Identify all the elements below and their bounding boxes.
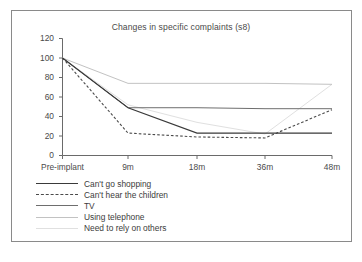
series-line-0 <box>63 58 333 133</box>
y-tick-label: 40 <box>28 111 54 121</box>
y-tick-label: 20 <box>28 131 54 141</box>
legend-item-label: TV <box>84 201 95 211</box>
x-tick-label: 18m <box>165 162 229 172</box>
legend-item-label: Can't go shopping <box>84 179 151 189</box>
y-tick-label: 120 <box>28 33 54 43</box>
legend-item: TV <box>36 200 266 211</box>
x-tick-label: 36m <box>233 162 297 172</box>
x-tick-label: Pre-implant <box>31 162 95 172</box>
legend-line-swatch <box>36 189 78 200</box>
y-tick-label: 100 <box>28 53 54 63</box>
y-tick-label: 80 <box>28 72 54 82</box>
series-line-3 <box>63 58 333 84</box>
legend-line-swatch <box>36 223 78 234</box>
legend-item: Using telephone <box>36 212 266 223</box>
x-tick-label: 48m <box>300 162 362 172</box>
legend-line-swatch <box>36 212 78 223</box>
x-tick-label: 9m <box>96 162 160 172</box>
legend-line-swatch <box>36 178 78 189</box>
legend-item-label: Can't hear the children <box>84 190 168 200</box>
chart-legend: Can't go shoppingCan't hear the children… <box>36 178 266 234</box>
legend-line-swatch <box>36 200 78 211</box>
legend-item-label: Using telephone <box>84 212 145 222</box>
legend-item: Can't go shopping <box>36 178 266 189</box>
series-line-1 <box>63 58 333 138</box>
y-tick-label: 0 <box>28 150 54 160</box>
legend-item-label: Need to rely on others <box>84 223 166 233</box>
y-tick-label: 60 <box>28 92 54 102</box>
legend-item: Need to rely on others <box>36 223 266 234</box>
legend-item: Can't hear the children <box>36 189 266 200</box>
series-line-4 <box>63 58 333 134</box>
